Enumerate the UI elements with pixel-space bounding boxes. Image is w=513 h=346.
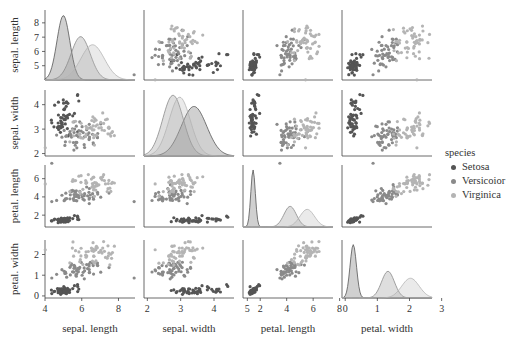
svg-text:2: 2 — [145, 303, 150, 314]
svg-text:2: 2 — [258, 303, 263, 314]
svg-text:petal. length: petal. length — [261, 322, 316, 334]
svg-text:3: 3 — [439, 303, 444, 314]
svg-text:2: 2 — [34, 148, 39, 159]
svg-text:6: 6 — [34, 173, 39, 184]
svg-text:4: 4 — [34, 191, 39, 202]
versicolor-marker-icon — [451, 179, 456, 184]
svg-text:3: 3 — [178, 303, 183, 314]
svg-text:sepal. length: sepal. length — [62, 322, 118, 334]
legend-item-virginica: Virginica — [445, 188, 505, 202]
setosa-marker-icon — [451, 165, 456, 170]
svg-text:0: 0 — [34, 290, 39, 301]
svg-text:4: 4 — [43, 303, 48, 314]
svg-text:2: 2 — [407, 303, 412, 314]
svg-text:6: 6 — [311, 303, 316, 314]
legend-item-setosa: Setosa — [445, 160, 505, 174]
svg-text:4: 4 — [34, 99, 39, 110]
svg-text:6: 6 — [34, 46, 39, 57]
svg-text:1: 1 — [375, 303, 380, 314]
svg-text:sepal. width: sepal. width — [8, 96, 20, 150]
svg-text:8: 8 — [337, 303, 342, 314]
svg-text:6: 6 — [79, 303, 84, 314]
virginica-marker-icon — [451, 193, 456, 198]
svg-text:sepal. width: sepal. width — [162, 322, 216, 334]
legend-item-versicolor: Versicoior — [445, 174, 505, 188]
svg-text:8: 8 — [116, 303, 121, 314]
svg-text:5: 5 — [34, 60, 39, 71]
svg-text:2: 2 — [34, 210, 39, 221]
pairplot: 5678sepal. length234sepal. width246petal… — [0, 0, 513, 346]
svg-text:0: 0 — [343, 303, 348, 314]
svg-text:petal. length: petal. length — [8, 168, 20, 223]
svg-text:4: 4 — [212, 303, 217, 314]
svg-text:1: 1 — [34, 270, 39, 281]
svg-text:5: 5 — [245, 303, 250, 314]
svg-text:8: 8 — [34, 17, 39, 28]
legend: species Setosa Versicoior Virginica — [445, 146, 505, 202]
svg-text:4: 4 — [284, 303, 289, 314]
svg-text:3: 3 — [34, 124, 39, 135]
svg-text:petal. width: petal. width — [361, 322, 413, 334]
svg-text:2: 2 — [34, 249, 39, 260]
svg-text:7: 7 — [34, 32, 39, 43]
svg-text:sepal. length: sepal. length — [8, 17, 20, 73]
svg-text:petal. width: petal. width — [8, 243, 20, 295]
legend-title: species — [445, 146, 505, 160]
